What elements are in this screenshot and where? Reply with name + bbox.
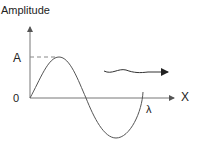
y-axis-label: Amplitude [1,5,50,16]
amplitude-label: A [13,52,21,64]
wavelength-label: λ [146,104,152,115]
origin-label: 0 [13,93,19,104]
x-axis-label: X [181,91,189,103]
wave-diagram [0,0,199,145]
propagation-arrow [104,70,168,73]
